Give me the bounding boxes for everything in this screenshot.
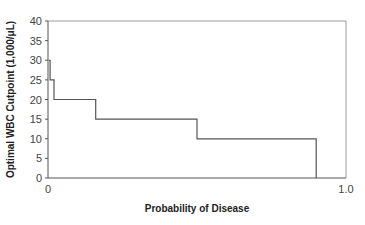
step-chart: 0510152025303540 01.0 Optimal WBC Cutpoi…: [0, 0, 365, 225]
y-tick-label: 30: [30, 54, 42, 66]
x-tick-label: 1.0: [338, 183, 353, 195]
y-tick-label: 35: [30, 35, 42, 47]
step-series-line: [49, 60, 316, 178]
x-tick-label: 0: [45, 183, 51, 195]
y-tick-label: 5: [36, 152, 42, 164]
x-axis-title: Probability of Disease: [145, 203, 250, 214]
x-axis: 01.0: [45, 183, 354, 195]
y-axis: 0510152025303540: [30, 15, 48, 184]
y-tick-label: 25: [30, 74, 42, 86]
y-tick-label: 40: [30, 15, 42, 27]
y-axis-title: Optimal WBC Cutpoint (1,000/μL): [5, 21, 16, 178]
y-tick-label: 0: [36, 172, 42, 184]
y-tick-label: 10: [30, 133, 42, 145]
y-tick-label: 15: [30, 113, 42, 125]
y-tick-label: 20: [30, 94, 42, 106]
